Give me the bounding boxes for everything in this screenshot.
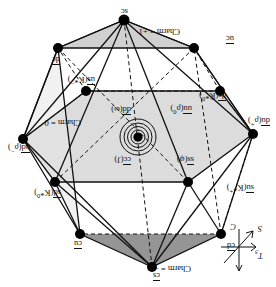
vertex-label-dc: dc xyxy=(52,56,60,66)
vertex-label-cs: cs xyxy=(153,272,160,282)
center-label-ss: ss(φ) xyxy=(177,156,194,166)
vertex-dot-cd xyxy=(216,229,226,239)
vertex-label-su: su(K*+) xyxy=(227,184,254,194)
vertex-label-ud: ud(ρ−) xyxy=(8,144,30,154)
figure-rotated-canvas: T3 S C Charm = +1 Charm = 0 Charm = −1 c… xyxy=(0,0,276,287)
axis-t3-arrowhead-b xyxy=(251,243,256,247)
vertex-label-sc: sc xyxy=(121,8,128,18)
vertex-label-cd: cd xyxy=(227,242,235,252)
axis-label-c: C xyxy=(230,222,236,232)
vertex-label-ds: ds(K̄*0) xyxy=(199,92,226,102)
center-label-cc: cc(J) xyxy=(114,156,131,166)
vertex-label-du: du(ρ+) xyxy=(248,117,270,127)
vertex-label-uc: uc xyxy=(226,35,234,45)
vertex-dot-sd xyxy=(50,177,60,187)
axis-label-s: S xyxy=(258,224,262,234)
vertex-dot-cu xyxy=(75,229,85,239)
figure-root: T3 S C Charm = +1 Charm = 0 Charm = −1 c… xyxy=(0,0,276,287)
vertex-dot-dc xyxy=(189,43,199,53)
plane-label-charm-zero: Charm = 0 xyxy=(45,119,81,128)
vertex-label-us: us(K*−) xyxy=(68,76,95,86)
center-label-uu: uu(ρ0) xyxy=(170,105,192,115)
origin-dot xyxy=(133,132,142,141)
axis-label-t3: T3 xyxy=(255,249,263,261)
vertex-dot-us xyxy=(81,86,91,96)
center-label-dd: dd(ω) xyxy=(111,106,131,116)
vertex-dot-ds xyxy=(183,177,193,187)
plane-label-charm-plus-1: Charm = +1 xyxy=(139,28,180,37)
vertex-dot-uc xyxy=(53,43,63,53)
vertex-dot-du xyxy=(248,129,258,139)
vertex-label-cu: cu xyxy=(74,240,82,250)
vertex-label-sd: sd(K*0) xyxy=(34,189,61,199)
